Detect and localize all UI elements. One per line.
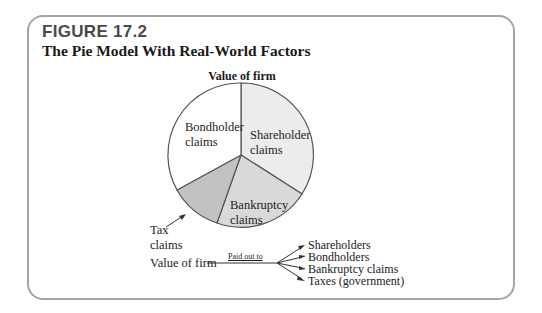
label-tax: Taxclaims [150, 223, 183, 253]
label-bondholder: Bondholderclaims [185, 120, 244, 150]
flow-target-taxes: Taxes (government) [308, 274, 404, 289]
tax-arrowhead-icon [179, 214, 186, 220]
flow-arrowheads-icon [297, 245, 306, 281]
label-bankruptcy: Bankruptcyclaims [230, 198, 288, 228]
flow-source: Value of firm [150, 256, 217, 271]
flow-branches [277, 247, 302, 279]
flow-edge-label: Paid out to [228, 252, 263, 262]
label-shareholder: Shareholderclaims [250, 128, 310, 158]
